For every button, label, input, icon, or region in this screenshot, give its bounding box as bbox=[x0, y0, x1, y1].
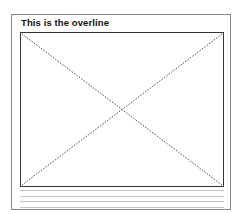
image-placeholder bbox=[20, 32, 224, 187]
text-line bbox=[20, 196, 224, 197]
text-line bbox=[20, 201, 224, 202]
text-line bbox=[20, 190, 224, 191]
image-placeholder-icon bbox=[21, 33, 223, 186]
overline-text: This is the overline bbox=[21, 17, 109, 28]
text-placeholder-lines bbox=[20, 190, 224, 212]
text-line bbox=[20, 207, 224, 208]
